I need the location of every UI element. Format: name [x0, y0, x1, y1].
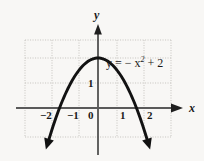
x-tick-minus2: −2 [40, 110, 52, 121]
y-tick-one: 1 [88, 78, 94, 89]
y-axis [94, 24, 102, 155]
x-axis-arrowhead [171, 103, 183, 112]
equation-main: y = − x [106, 56, 141, 70]
y-axis-label: y [94, 9, 99, 21]
curve-left-arrowhead [44, 138, 54, 150]
equation-annotation: y = − x2 + 2 [106, 57, 163, 69]
y-axis-arrowhead [94, 24, 102, 35]
equation-tail: + 2 [148, 56, 164, 70]
x-tick-minus1: −1 [67, 110, 79, 121]
curve-right-arrowhead [142, 138, 152, 150]
x-tick-zero: 0 [88, 110, 94, 121]
x-axis-label: x [189, 102, 195, 114]
parabola-plot [0, 0, 204, 161]
x-tick-two: 2 [147, 110, 153, 121]
equation-exponent: 2 [141, 55, 145, 64]
figure-container: y x −2 −1 0 1 2 1 y = − x2 + 2 [0, 0, 204, 161]
x-tick-one: 1 [120, 110, 126, 121]
